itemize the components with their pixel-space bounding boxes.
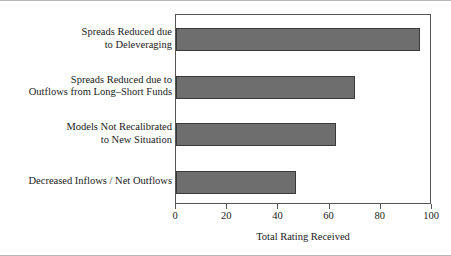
x-tick-label: 20 [206,210,246,221]
x-tick-label: 60 [309,210,349,221]
x-axis-title: Total Rating Received [175,231,431,242]
x-tick-label: 80 [360,210,400,221]
x-tick-label: 0 [155,210,195,221]
plot-area [176,15,430,203]
category-label: Decreased Inflows / Net Outflows [0,175,172,188]
x-tick-mark [431,204,432,209]
plot-frame [175,14,431,204]
x-tick-mark [380,204,381,209]
bar [176,123,336,146]
x-tick-label: 100 [411,210,451,221]
bar [176,28,420,51]
x-tick-mark [175,204,176,209]
bar-chart-figure: Spreads Reduced due to DeleveragingSprea… [0,0,451,256]
x-tick-mark [277,204,278,209]
x-tick-mark [329,204,330,209]
x-tick-mark [226,204,227,209]
bar [176,171,296,194]
category-label: Spreads Reduced due to Outflows from Lon… [0,74,172,99]
x-tick-label: 40 [257,210,297,221]
image-top-border [0,0,451,1]
bar [176,76,355,99]
category-label: Spreads Reduced due to Deleveraging [0,26,172,51]
category-label: Models Not Recalibrated to New Situation [0,121,172,146]
